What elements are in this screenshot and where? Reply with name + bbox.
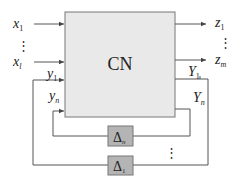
feedback-input-label-yn: yn [47,88,59,105]
output-ellipsis: ⋮ [219,35,232,50]
output-label-zm: zm [214,52,226,69]
cn-block-label: CN [107,54,132,74]
feedback-output-label-Yn: Yn [193,90,205,107]
input-ellipsis: ⋮ [17,38,30,53]
loop-ellipsis: ⋮ [165,145,178,160]
input-label-xl: xl [12,54,22,71]
feedback-output-label-Y1: Y1 [188,64,200,81]
feedback-input-label-y1: y1 [45,66,57,83]
output-label-z1: z1 [214,15,224,32]
feedback-diagram: CN x1 ⋮ xl z1 ⋮ zm y1 yn Y1 Yn ⋮ Δn Δ1 [0,0,245,185]
input-label-x1: x1 [12,16,23,33]
